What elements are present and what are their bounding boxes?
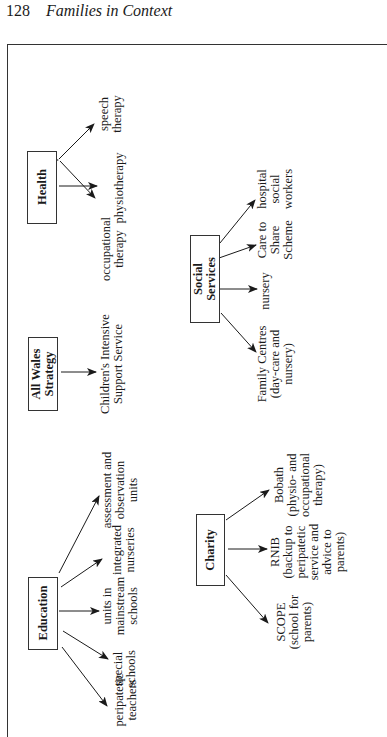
node-label: Health	[36, 169, 49, 205]
child-assessment-and-observation-units: assessment and observation units	[101, 452, 140, 529]
node-charity: Charity	[196, 514, 225, 586]
child-integrated-nurseries: integrated nurseries	[111, 525, 137, 575]
child-family-centres: Family Centres (day-care and nursery)	[256, 326, 295, 403]
node-social-services: Social Services	[190, 235, 220, 323]
child-hospital-social-workers: hospital social workers	[256, 169, 295, 209]
node-label: Strategy	[43, 349, 56, 400]
child-care-to-share-scheme: Care to Share Scheme	[256, 220, 295, 260]
diagram-arrows	[0, 0, 387, 737]
node-health: Health	[27, 151, 57, 224]
node-label: Education	[37, 586, 50, 641]
child-physiotherapy: physiotherapy	[113, 153, 126, 224]
child-childrens-intensive-support-service: Children's Intensive Support Service	[99, 314, 125, 414]
child-scope: SCOPE (school for parents)	[275, 595, 314, 650]
child-occupational-therapy: occupational therapy	[100, 217, 126, 281]
node-label: Services	[205, 257, 218, 301]
node-label: Charity	[204, 529, 217, 571]
node-education: Education	[28, 577, 58, 650]
child-rnib: RNIB (backup to peripatetic service and …	[269, 524, 347, 581]
child-units-in-mainstream-schools: units in mainstream schools	[101, 577, 140, 635]
child-special-schools: special schools	[112, 650, 138, 688]
child-speech-therapy: speech therapy	[98, 95, 124, 132]
child-bobath: Bobath (physio- and occupational therapy…	[273, 453, 325, 517]
node-all-wales-strategy: All Wales Strategy	[28, 337, 58, 411]
child-nursery: nursery	[259, 272, 272, 310]
